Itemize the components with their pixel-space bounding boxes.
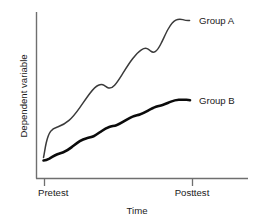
x-axis-title: Time <box>127 205 148 216</box>
series-label-group-a: Group A <box>199 15 235 26</box>
series-label-group-b: Group B <box>199 95 235 106</box>
y-axis-title: Dependent variable <box>18 54 29 137</box>
x-tick-label-pretest: Pretest <box>38 187 69 198</box>
x-tick-label-posttest: Posttest <box>175 187 210 198</box>
chart-canvas: Dependent variable Time Pretest Posttest… <box>0 0 254 223</box>
line-chart-figure: Dependent variable Time Pretest Posttest… <box>0 0 254 223</box>
